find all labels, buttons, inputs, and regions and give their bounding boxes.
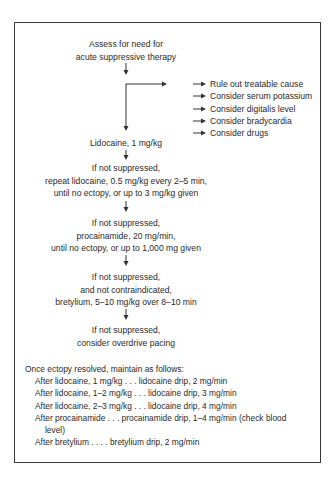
maintenance-item: After lidocaine, 1 mg/kg . . . lidocaine… xyxy=(25,375,286,387)
step-procainamide: If not suppressed, procainamide, 20 mg/m… xyxy=(51,217,201,255)
branch-right-arrow xyxy=(126,82,167,87)
arrow-right-icon xyxy=(193,117,207,125)
arrow-down-icon xyxy=(124,63,129,75)
maintenance-section: Once ectopy resolved, maintain as follow… xyxy=(25,363,286,448)
step-bretylium: If not suppressed, and not contraindicat… xyxy=(55,271,196,309)
side-check-item: Consider digitalis level xyxy=(193,103,312,115)
start-line: Assess for need for xyxy=(76,38,176,51)
side-check-item: Rule out treatable cause xyxy=(193,78,312,90)
step-repeat-lidocaine: If not suppressed, repeat lidocaine, 0.5… xyxy=(45,162,207,200)
arrow-right-icon xyxy=(193,105,207,113)
maintenance-item: After lidocaine, 2–3 mg/kg . . . lidocai… xyxy=(25,400,286,412)
maintenance-heading: Once ectopy resolved, maintain as follow… xyxy=(25,363,286,375)
side-check-item: Consider bradycardia xyxy=(193,115,312,127)
arrow-down-icon xyxy=(124,255,129,266)
step-overdrive-pacing: If not suppressed, consider overdrive pa… xyxy=(77,324,175,349)
start-node: Assess for need for acute suppressive th… xyxy=(76,38,176,63)
start-line: acute suppressive therapy xyxy=(76,51,176,64)
maintenance-item: After procainamide . . . procainamide dr… xyxy=(25,412,286,436)
arrow-down-icon xyxy=(124,309,129,320)
arrow-right-icon xyxy=(193,92,207,100)
maintenance-item: After bretylium . . . . bretylium drip, … xyxy=(25,436,286,448)
side-checks-list: Rule out treatable cause Consider serum … xyxy=(193,78,312,139)
branch-down-arrow xyxy=(124,84,129,131)
maintenance-item: After lidocaine, 1–2 mg/kg . . . lidocai… xyxy=(25,387,286,399)
arrow-down-icon xyxy=(124,150,129,160)
side-check-item: Consider serum potassium xyxy=(193,90,312,102)
arrow-right-icon xyxy=(193,80,207,88)
arrow-down-icon xyxy=(124,201,129,212)
side-check-item: Consider drugs xyxy=(193,127,312,139)
arrow-right-icon xyxy=(193,129,207,137)
step-lidocaine: Lidocaine, 1 mg/kg xyxy=(90,137,162,150)
